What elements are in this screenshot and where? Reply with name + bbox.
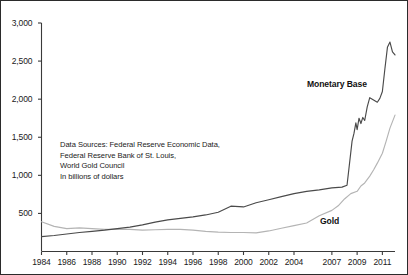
axis-group — [38, 23, 395, 255]
chart-plot-area — [1, 1, 408, 275]
series-label-monetary-base: Monetary Base — [307, 79, 367, 89]
chart-figure: 5001,0001,5002,0002,5003,000 19841986198… — [0, 0, 408, 275]
series-label-gold: Gold — [320, 216, 339, 226]
y-tick-label: 1,500 — [0, 132, 33, 142]
data-sources-note: Data Sources: Federal Reserve Economic D… — [60, 140, 220, 182]
y-tick-label: 500 — [0, 208, 33, 218]
x-tick-label: 2011 — [362, 257, 402, 267]
y-tick-label: 1,000 — [0, 170, 33, 180]
y-tick-label: 2,500 — [0, 56, 33, 66]
y-tick-label: 2,000 — [0, 94, 33, 104]
y-tick-label: 3,000 — [0, 18, 33, 28]
x-tick-label: 2004 — [274, 257, 314, 267]
